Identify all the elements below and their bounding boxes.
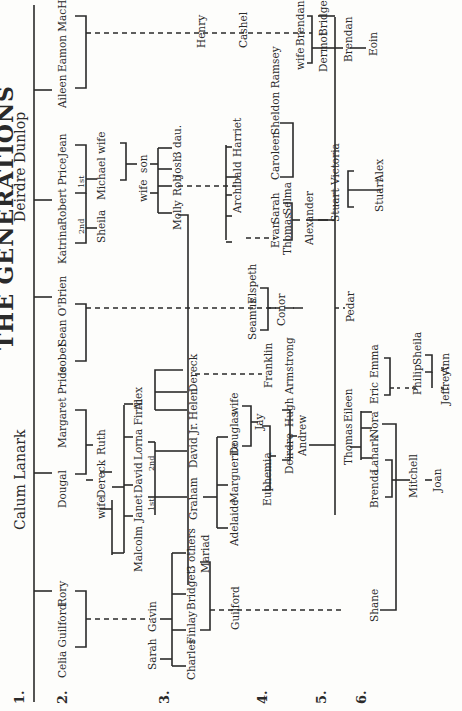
person-lanark: Lanark <box>369 435 380 473</box>
person-katrina: Katrina <box>57 224 68 264</box>
person-ann: Ann <box>440 353 451 374</box>
person-son: son <box>138 155 149 173</box>
person-brendan-2: Brendan <box>343 17 354 62</box>
person-philip: Philip <box>412 364 423 395</box>
person-aileen: Aileen <box>57 75 68 109</box>
person-deirdre: Deirdre <box>284 433 295 474</box>
person-conor: Conor <box>276 294 287 326</box>
person-gavin: Gavin <box>147 601 158 632</box>
person-franklin: Franklin <box>263 343 274 388</box>
person-3-others: 3 others <box>186 528 197 572</box>
person-rory: Rory <box>57 581 68 606</box>
person-nora: Nora <box>369 411 380 438</box>
generation-label-5: 5. <box>315 690 328 704</box>
marriage-1st-label-david: 1st <box>148 499 156 511</box>
generation-label-4: 4. <box>256 690 269 704</box>
person-graham: Graham <box>188 477 199 520</box>
person-brendan: Brendan <box>295 1 306 46</box>
person-henry: Henry <box>196 15 207 48</box>
marriage-2nd-label-david: 2nd <box>148 456 156 471</box>
person-shane: Shane <box>369 589 380 622</box>
person-finlay: Finlay <box>186 611 197 644</box>
person-pedar: Pedar <box>345 291 356 322</box>
person-victoria: Victoria <box>330 143 341 185</box>
founder-calum-lanark: Calum Lanark <box>13 430 27 530</box>
person-sean-obrien: Sean O'Brien <box>57 276 68 346</box>
person-son-wife: wife <box>138 180 149 202</box>
person-isobel: Isobel <box>57 344 68 376</box>
person-harriet: Harriet <box>232 118 243 157</box>
person-bridget: Bridget <box>186 570 197 610</box>
person-dougal: Dougal <box>57 470 68 508</box>
person-sheila-2: Sheila <box>412 332 423 365</box>
person-dereck-wife: wife <box>96 497 107 519</box>
person-eamon-machenry: Eamon MacHenry <box>57 0 68 72</box>
person-brenda: Brenda <box>369 469 380 508</box>
person-stuart: Stuart <box>330 188 341 222</box>
person-thomas: Thomas <box>282 213 293 255</box>
person-cashel: Cashel <box>238 12 249 48</box>
person-alexander: Alexander <box>304 191 315 245</box>
person-molly: Molly <box>172 200 183 230</box>
person-michael-wife: wife <box>96 132 107 154</box>
person-sheldon-ramsey: Sheldon Ramsey <box>270 46 281 135</box>
person-dereck: Dereck <box>96 460 107 498</box>
generation-label-6: 6. <box>355 690 368 704</box>
person-douglas-wife: wife <box>229 393 240 415</box>
person-michael: Michael <box>96 157 107 200</box>
person-jay: Jay <box>254 414 265 430</box>
person-ruth: Ruth <box>96 429 107 455</box>
person-emma: Emma <box>369 344 380 378</box>
person-charles: Charles <box>186 639 197 680</box>
generation-label-3: 3. <box>158 690 171 704</box>
person-alex: Alex <box>133 387 144 410</box>
person-3-daughters: 3 dau. <box>172 125 183 158</box>
person-celia-guilford: Celia Guilford <box>57 604 68 678</box>
person-seamus: Seamus <box>247 298 258 340</box>
person-alex-2: Alex <box>374 159 385 182</box>
founder-deirdre-dunlop: Deirdre Dunlop <box>13 112 27 222</box>
person-malcolm: Malcolm <box>133 526 144 572</box>
person-margaret-price: Margaret Price <box>57 367 68 448</box>
person-adelaide: Adelaide <box>229 500 240 546</box>
person-guilford: Guilford <box>230 586 241 630</box>
person-elspeth: Elspeth <box>247 264 258 304</box>
person-brendan-wife: wife <box>295 48 306 70</box>
person-selma: Selma <box>282 182 293 215</box>
person-mariad: Mariad <box>200 535 211 573</box>
person-helen: Helen <box>188 388 199 420</box>
person-thomas-2: Thomas <box>343 423 354 465</box>
marriage-2nd-label: 2nd <box>78 219 86 234</box>
person-mitchell: Mitchell <box>408 454 419 498</box>
person-eileen: Eileen <box>343 388 354 422</box>
generation-label-2: 2. <box>56 690 69 704</box>
person-janet: Janet <box>133 494 144 522</box>
person-sheila: Sheila <box>96 210 107 243</box>
person-sarah: Sarah <box>147 639 158 671</box>
person-dereck-2: Dereck <box>188 354 199 392</box>
person-euphemia: Euphemia <box>262 452 273 506</box>
person-hugh-armstrong: Hugh Armstrong <box>284 337 295 427</box>
person-dermot: Dermot <box>318 32 329 72</box>
marriage-1st-label: 1st <box>78 176 86 188</box>
person-eoin: Eoin <box>368 32 379 56</box>
person-caroleen: Caroleen <box>270 132 281 180</box>
person-rob: Rob <box>172 175 183 196</box>
person-archibald: Archibald <box>232 161 243 213</box>
person-douglas: Douglas <box>229 412 240 455</box>
person-david: David <box>133 462 144 493</box>
person-josh: Josh <box>172 155 183 178</box>
person-joan: Joan <box>432 468 443 492</box>
person-stuart-2: Stuart <box>374 178 385 212</box>
person-jeffrey: Jeffrey <box>440 370 451 405</box>
person-david-jr: David Jr. <box>188 423 199 468</box>
person-andrew: Andrew <box>297 415 308 456</box>
person-jean: Jean <box>57 134 68 157</box>
person-evan: Evan <box>270 221 281 248</box>
person-bridget-2: Bridget <box>318 0 329 36</box>
person-eric: Eric <box>369 382 380 404</box>
person-robert-price: Robert Price <box>57 158 68 225</box>
generation-label-1: 1. <box>13 690 26 704</box>
person-sarah-2: Sarah <box>270 193 281 225</box>
family-tree-page: THE GENERATIONS 1. 2. 3. 4. 5. 6. Calum … <box>0 0 462 711</box>
